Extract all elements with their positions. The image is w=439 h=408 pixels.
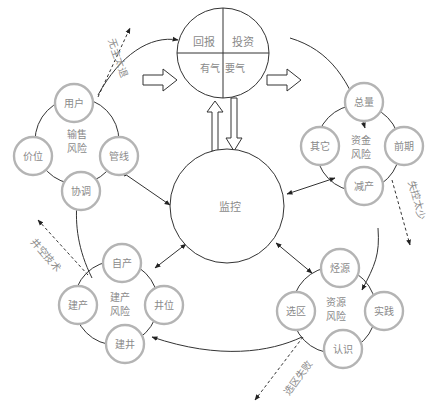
cluster-construction-risk: 建产 风险 自产 建产 井位 建井: [59, 244, 183, 363]
dashed-arrow-right: [392, 180, 410, 245]
node-hydrocarbon-source: 烃源: [330, 262, 350, 274]
cluster-label: 风险: [351, 148, 371, 160]
flow-resource-to-construction: [152, 337, 302, 351]
block-arrow-top-to-right: [267, 69, 301, 91]
cluster-resource-risk: 资源 风险 烃源 选区 实践 认识: [277, 249, 403, 368]
block-arrow-down: [226, 98, 242, 151]
node-total: 总量: [354, 96, 374, 108]
node-self-production: 自产: [112, 257, 132, 269]
cluster-label: 资源: [326, 296, 346, 308]
quadrant-need-gas: 要气: [225, 62, 245, 74]
dashed-label-left: 井空技术: [29, 236, 64, 274]
cluster-sales-risk: 输售 风险 用户 价位 管线 协调: [14, 84, 138, 210]
flow-construction-to-sales: [76, 202, 92, 278]
block-arrow-up: [207, 101, 223, 151]
node-user: 用户: [64, 97, 84, 109]
node-price: 价位: [23, 150, 43, 162]
node-production-decline: 减产: [354, 180, 374, 192]
link-funding-center: [287, 178, 335, 194]
node-practice: 实践: [374, 305, 394, 317]
link-construction-center: [155, 244, 186, 268]
cluster-label: 输售: [67, 128, 87, 140]
node-capacity-building: 建产: [68, 299, 88, 311]
node-other: 其它: [310, 140, 330, 152]
quadrant-return: 回报: [193, 35, 215, 49]
block-arrow-left-to-top: [143, 69, 177, 91]
risk-monitoring-diagram: 回报 投资 有气 要气 监控 输售 风险 用户 价位 管线 协调 资金 风险 总…: [0, 0, 439, 408]
node-zone-selection: 选区: [286, 305, 306, 317]
node-early-stage: 前期: [394, 140, 414, 152]
cluster-label: 建产: [110, 291, 130, 303]
node-coordination: 协调: [71, 185, 91, 197]
cluster-label: 风险: [326, 310, 346, 322]
dashed-label-right: 失控太少: [407, 179, 429, 221]
monitoring-circle: 监控: [170, 149, 284, 263]
node-well-location: 井位: [154, 299, 174, 311]
cluster-funding-risk: 资金 风险 总量 其它 前期 减产: [301, 83, 423, 205]
investment-return-circle: 回报 投资 有气 要气: [177, 8, 269, 98]
dashed-label-bottom: 选区失败: [281, 358, 314, 398]
link-resource-center: [276, 243, 312, 273]
node-understanding: 认识: [333, 343, 353, 355]
quadrant-investment: 投资: [232, 35, 254, 49]
cluster-label: 风险: [67, 142, 87, 154]
node-pipeline: 管线: [109, 150, 129, 162]
link-sales-center: [122, 172, 170, 205]
center-label: 监控: [219, 200, 241, 214]
quadrant-have-gas: 有气: [200, 62, 220, 74]
node-well-construction: 建井: [115, 338, 135, 350]
cluster-label: 风险: [110, 305, 130, 317]
cluster-label: 资金: [351, 134, 371, 146]
